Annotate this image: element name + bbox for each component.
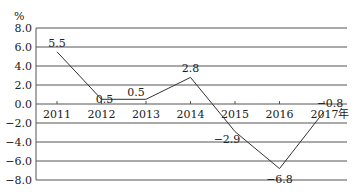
y-tick-label: −4.0 — [5, 136, 32, 149]
data-label: −6.8 — [266, 173, 293, 186]
data-label: 0.5 — [96, 93, 114, 106]
data-label: −0.8 — [317, 97, 344, 110]
y-tick-label: 0.0 — [15, 98, 33, 111]
y-tick-label: 8.0 — [15, 22, 33, 35]
y-axis-unit-label: % — [14, 10, 24, 23]
data-label: 2.8 — [182, 62, 200, 75]
y-tick-label: −2.0 — [5, 117, 32, 130]
data-label: 0.5 — [127, 86, 145, 99]
y-tick-label: 2.0 — [15, 79, 33, 92]
x-tick-label: 2014 — [177, 108, 205, 121]
x-tick-label: 2013 — [132, 108, 160, 121]
y-tick-label: −8.0 — [5, 174, 32, 187]
data-label: 5.5 — [48, 37, 66, 50]
x-tick-label: 2012 — [88, 108, 116, 121]
x-tick-label: 2011 — [43, 108, 71, 121]
gridlines — [36, 28, 347, 180]
x-tick-label: 2016 — [266, 108, 294, 121]
y-tick-label: −6.0 — [5, 155, 32, 168]
y-axis-tick-labels: 8.06.04.02.00.0−2.0−4.0−6.0−8.0 — [5, 22, 32, 187]
data-label: −2.9 — [214, 133, 241, 146]
y-tick-label: 4.0 — [15, 60, 33, 73]
y-tick-label: 6.0 — [15, 41, 33, 54]
line-chart: 8.06.04.02.00.0−2.0−4.0−6.0−8.0 % 201120… — [0, 0, 356, 195]
